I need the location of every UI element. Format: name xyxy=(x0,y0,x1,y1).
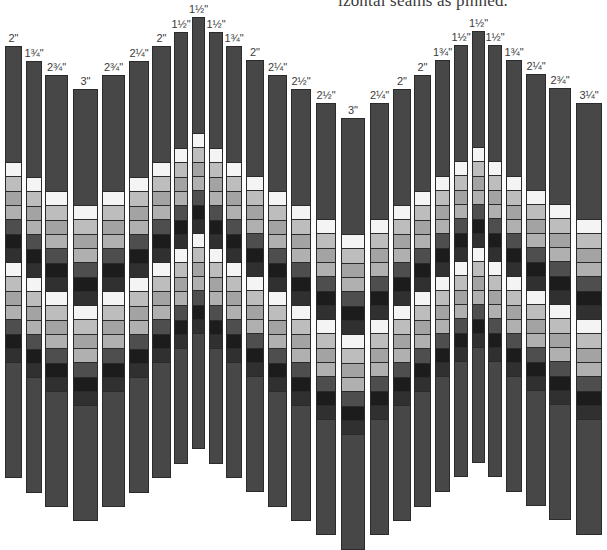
fabric-segment xyxy=(577,405,601,420)
fabric-segment xyxy=(153,291,170,306)
fabric-segment xyxy=(27,320,41,335)
fabric-segment xyxy=(577,362,601,377)
fabric-segment xyxy=(27,220,41,235)
fabric-segment xyxy=(292,219,310,234)
fabric-segment xyxy=(550,390,570,405)
strip-width-label: 2" xyxy=(156,32,166,44)
fabric-segment xyxy=(247,348,263,363)
strip-width-label: 1½" xyxy=(485,31,504,43)
fabric-segment xyxy=(436,233,449,248)
fabric-segment xyxy=(436,362,449,377)
seam-line xyxy=(227,362,241,363)
fabric-segment xyxy=(507,233,521,248)
fabric-segment xyxy=(27,191,41,206)
fabric-segment xyxy=(292,305,310,320)
fabric-strip xyxy=(102,75,125,507)
fabric-segment xyxy=(415,291,430,306)
fabric-segment xyxy=(6,162,21,177)
fabric-segment xyxy=(473,161,484,176)
fabric-segment xyxy=(130,334,148,349)
fabric-segment xyxy=(130,306,148,321)
fabric-segment xyxy=(507,348,521,363)
fabric-segment xyxy=(489,261,501,276)
seam-line xyxy=(455,361,467,362)
fabric-segment xyxy=(371,291,388,306)
fabric-segment xyxy=(193,247,204,262)
fabric-segment xyxy=(415,191,430,206)
fabric-segment xyxy=(130,220,148,235)
fabric-segment xyxy=(436,205,449,220)
fabric-segment xyxy=(473,204,484,219)
fabric-segment xyxy=(473,276,484,291)
fabric-segment xyxy=(74,248,97,263)
fabric-segment xyxy=(342,334,364,349)
fabric-segment xyxy=(371,233,388,248)
fabric-strip xyxy=(526,74,546,506)
fabric-segment xyxy=(489,275,501,290)
fabric-segment xyxy=(292,205,310,220)
fabric-segment xyxy=(394,377,410,392)
fabric-segment xyxy=(46,305,67,320)
fabric-segment xyxy=(317,248,335,263)
fabric-segment xyxy=(317,262,335,277)
fabric-segment xyxy=(193,147,204,162)
caption-text: izontal seams as pinned. xyxy=(338,0,508,11)
fabric-segment xyxy=(153,219,170,234)
fabric-segment xyxy=(473,176,484,191)
fabric-segment xyxy=(6,305,21,320)
fabric-segment xyxy=(269,334,286,349)
fabric-segment xyxy=(455,161,467,176)
fabric-segment xyxy=(27,277,41,292)
fabric-segment xyxy=(489,218,501,233)
fabric-segment xyxy=(415,334,430,349)
fabric-segment xyxy=(342,263,364,278)
fabric-segment xyxy=(153,162,170,177)
fabric-segment xyxy=(292,234,310,249)
fabric-strip xyxy=(341,118,365,550)
fabric-segment xyxy=(247,233,263,248)
fabric-segment xyxy=(153,334,170,349)
fabric-segment xyxy=(371,405,388,420)
fabric-segment xyxy=(46,334,67,349)
fabric-segment xyxy=(269,363,286,378)
strip-width-label: 2¼" xyxy=(129,47,148,59)
fabric-segment xyxy=(46,377,67,392)
fabric-segment xyxy=(550,218,570,233)
fabric-segment xyxy=(269,348,286,363)
fabric-segment xyxy=(6,348,21,363)
fabric-segment xyxy=(489,190,501,205)
fabric-segment xyxy=(175,162,187,177)
strip-width-label: 1¾" xyxy=(224,32,243,44)
seam-line xyxy=(317,419,335,420)
fabric-segment xyxy=(269,220,286,235)
fabric-segment xyxy=(527,262,545,277)
fabric-segment xyxy=(342,306,364,321)
fabric-segment xyxy=(210,334,222,349)
fabric-segment xyxy=(489,347,501,362)
fabric-segment xyxy=(371,348,388,363)
fabric-segment xyxy=(27,363,41,378)
fabric-segment xyxy=(507,219,521,234)
seam-line xyxy=(153,362,170,363)
fabric-segment xyxy=(550,333,570,348)
fabric-segment xyxy=(371,276,388,291)
fabric-segment xyxy=(527,290,545,305)
strip-width-label: 1¾" xyxy=(433,46,452,58)
fabric-segment xyxy=(527,304,545,319)
fabric-segment xyxy=(507,176,521,191)
fabric-segment xyxy=(550,304,570,319)
fabric-segment xyxy=(103,334,124,349)
fabric-segment xyxy=(371,391,388,406)
fabric-segment xyxy=(455,175,467,190)
fabric-segment xyxy=(342,277,364,292)
fabric-segment xyxy=(527,276,545,291)
fabric-segment xyxy=(130,206,148,221)
fabric-segment xyxy=(577,305,601,320)
fabric-segment xyxy=(455,233,467,248)
fabric-segment xyxy=(193,133,204,148)
fabric-segment xyxy=(394,277,410,292)
fabric-segment xyxy=(227,348,241,363)
fabric-segment xyxy=(269,205,286,220)
fabric-segment xyxy=(247,333,263,348)
fabric-segment xyxy=(507,333,521,348)
